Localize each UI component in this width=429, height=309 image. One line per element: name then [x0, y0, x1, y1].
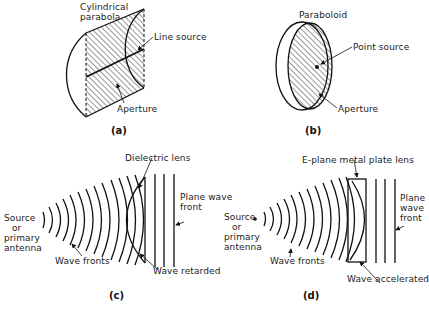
source-label-d: Source or primary antenna: [224, 212, 262, 252]
aperture-label-b: Aperture: [338, 104, 378, 114]
metal-plate-lens-label: E-plane metal plate lens: [302, 155, 414, 165]
plane-wave-front-label-c: Plane wave front: [180, 192, 232, 212]
wave-accelerated-label: Wave accelerated: [347, 274, 429, 284]
wave-fronts-label-d: Wave fronts: [270, 256, 325, 266]
panel-a-cylindrical-parabola: [67, 9, 154, 117]
cylindrical-parabola-label: Cylindrical parabola: [80, 2, 128, 22]
caption-b: (b): [305, 125, 321, 136]
panel-c-dielectric-lens: [43, 158, 184, 270]
caption-a: (a): [111, 125, 127, 136]
caption-c: (c): [109, 290, 124, 301]
aperture-label-a: Aperture: [117, 104, 157, 114]
plane-wave-front-label-d: Plane wave front: [400, 193, 425, 223]
point-source-label: Point source: [353, 42, 409, 52]
dielectric-lens-label: Dielectric lens: [125, 153, 190, 163]
caption-d: (d): [303, 290, 319, 301]
wave-fronts-label-c: Wave fronts: [55, 256, 110, 266]
source-label-c: Source or primary antenna: [4, 213, 42, 253]
line-source-label: Line source: [154, 32, 207, 42]
wave-retarded-label: Wave retarded: [153, 266, 220, 276]
paraboloid-label: Paraboloid: [299, 10, 347, 20]
panel-b-paraboloid: [276, 22, 352, 110]
